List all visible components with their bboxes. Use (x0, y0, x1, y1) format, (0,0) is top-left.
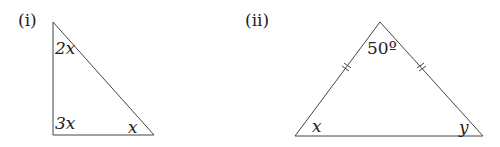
angle-bottom-right-i: x (128, 119, 138, 136)
angle-top-i: 2x (55, 40, 75, 57)
figure-label-ii: (ii) (245, 12, 269, 29)
angle-bottom-left-ii: x (312, 118, 322, 135)
diagram: (i) 2x 3x x (ii) 50º x y (0, 0, 500, 147)
figure-label-i: (i) (18, 12, 37, 29)
angle-bottom-right-ii: y (459, 119, 469, 136)
angle-bottom-left-i: 3x (55, 115, 75, 132)
angle-apex-ii: 50º (367, 40, 397, 57)
